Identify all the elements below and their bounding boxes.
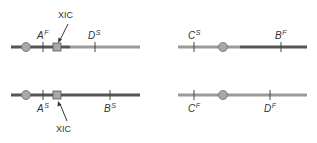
xic-square-icon: [53, 91, 61, 99]
xic-label: XIC: [56, 125, 71, 134]
chromosome-bottom-right: [178, 90, 307, 100]
xic-square-icon: [53, 43, 61, 51]
centromere-icon: [219, 91, 228, 100]
chromosome-diagram: XIC AF DS CS BF AS BS XIC CF DF: [0, 0, 317, 143]
locus-letter: B: [104, 103, 111, 114]
allele-superscript: F: [272, 102, 276, 109]
allele-superscript: S: [196, 29, 201, 36]
locus-label-d: DS: [88, 31, 100, 42]
locus-letter: A: [37, 30, 44, 41]
chromosome-top-right: [178, 42, 307, 52]
chromosome-bottom-left: [11, 90, 140, 121]
locus-letter: D: [88, 30, 95, 41]
allele-superscript: S: [44, 102, 49, 109]
locus-letter: A: [37, 103, 44, 114]
chromosome-top-left: [11, 24, 140, 52]
allele-superscript: F: [282, 29, 286, 36]
centromere-icon: [22, 43, 31, 52]
locus-letter: D: [264, 103, 271, 114]
centromere-icon: [22, 91, 31, 100]
allele-superscript: F: [44, 29, 48, 36]
locus-label-b: BS: [104, 104, 116, 115]
locus-label-c: CS: [188, 31, 200, 42]
locus-label-c: CF: [188, 104, 200, 115]
locus-label-a: AS: [37, 104, 49, 115]
locus-letter: C: [188, 103, 195, 114]
allele-superscript: S: [96, 29, 101, 36]
xic-arrow-line: [60, 104, 67, 121]
allele-superscript: F: [196, 102, 200, 109]
allele-superscript: S: [111, 102, 116, 109]
locus-letter: B: [275, 30, 282, 41]
locus-label-a: AF: [37, 31, 48, 42]
xic-arrow-line: [60, 24, 68, 40]
diagram-graphics: [0, 0, 317, 143]
xic-label: XIC: [58, 11, 73, 20]
locus-label-d: DF: [264, 104, 276, 115]
locus-label-b: BF: [275, 31, 286, 42]
xic-arrowhead-icon: [58, 38, 62, 44]
centromere-icon: [219, 43, 228, 52]
locus-letter: C: [188, 30, 195, 41]
